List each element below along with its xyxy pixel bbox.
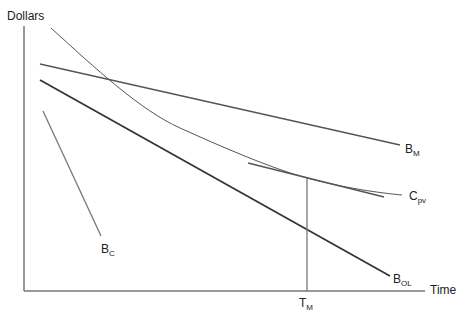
tangent-line: [248, 163, 384, 197]
label-t-m: TM: [299, 297, 313, 312]
label-b-ol: BOL: [393, 273, 412, 288]
label-b-m-main: B: [405, 142, 413, 156]
curve-c-pv: [51, 28, 402, 195]
label-t-m-sub: M: [306, 303, 313, 312]
line-b-m: [40, 64, 400, 145]
label-c-pv-sub: pv: [418, 196, 426, 205]
label-b-c: BC: [101, 243, 115, 258]
label-c-pv-main: C: [409, 189, 418, 203]
diagram-canvas: [0, 0, 466, 315]
line-b-c: [43, 111, 101, 236]
label-b-m-sub: M: [413, 149, 420, 158]
label-b-c-sub: C: [109, 249, 115, 258]
label-b-c-main: B: [101, 242, 109, 256]
label-b-ol-sub: OL: [401, 279, 412, 288]
label-b-m: BM: [405, 143, 420, 158]
label-b-ol-main: B: [393, 272, 401, 286]
y-axis-label: Dollars: [7, 10, 44, 22]
label-c-pv: Cpv: [409, 190, 426, 205]
line-b-ol: [40, 80, 390, 276]
x-axis-label: Time: [430, 284, 456, 296]
